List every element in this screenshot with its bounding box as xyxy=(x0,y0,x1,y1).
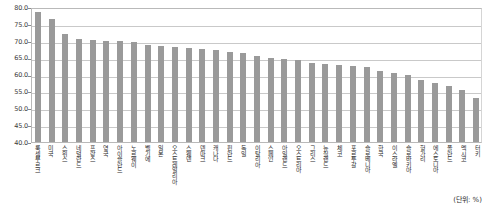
x-axis-tick-label-text: 룩셈부르크 xyxy=(34,145,40,173)
bar xyxy=(281,59,287,142)
bar xyxy=(199,49,205,142)
bar xyxy=(473,98,479,142)
bar xyxy=(117,41,123,142)
x-axis-tick-label: 일본 xyxy=(158,144,164,192)
x-axis-tick-label: 오스트리아 xyxy=(295,144,301,192)
x-axis-labels: 룩셈부르크미국스위스네덜란드프랑스영국아이슬란드노르웨이벨기에일본오스트레일리아… xyxy=(31,144,482,192)
x-axis-tick-label-text: 네덜란드 xyxy=(75,145,81,167)
bar xyxy=(268,58,274,142)
x-axis-tick-label: 에스토니아 xyxy=(433,144,439,192)
y-axis-tick-label: 60.0 xyxy=(14,72,28,79)
bar xyxy=(295,60,301,142)
bar xyxy=(213,50,219,142)
y-axis-tick-label: 80.0 xyxy=(14,5,28,12)
bar xyxy=(254,56,260,142)
x-axis-tick-label: 벨기에 xyxy=(144,144,150,192)
x-axis-tick-label-text: 핀란드 xyxy=(226,145,232,162)
x-axis-tick-label-text: 오스트레일리아 xyxy=(171,145,177,184)
x-axis-tick-label: 독일 xyxy=(240,144,246,192)
x-axis-tick-label: 아일랜드 xyxy=(282,144,288,192)
x-axis-tick-label-text: 슬로바키아 xyxy=(405,145,411,173)
bar xyxy=(459,90,465,142)
x-axis-tick-label: 프랑스 xyxy=(89,144,95,192)
x-axis-tick-label-text: 스페인 xyxy=(268,145,274,162)
x-axis-tick-label: 아이슬란드 xyxy=(117,144,123,192)
x-axis-tick-label: 뉴질랜드 xyxy=(323,144,329,192)
x-axis-tick-label-text: 영국 xyxy=(103,145,109,156)
bar xyxy=(336,65,342,142)
x-axis-tick-label-text: 덴마크 xyxy=(199,145,205,162)
bar xyxy=(322,64,328,142)
x-axis-tick-label: 덴마크 xyxy=(199,144,205,192)
unit-note: (단위: %) xyxy=(453,194,482,204)
x-axis-tick-label: 체코 xyxy=(337,144,343,192)
y-axis-tick-label: 75.0 xyxy=(14,22,28,29)
bar xyxy=(227,52,233,142)
bar xyxy=(186,48,192,143)
x-axis-tick-label-text: 폴란드 xyxy=(446,145,452,162)
x-axis-tick-label-text: 이스라엘 xyxy=(391,145,397,167)
x-axis-tick-label-text: 캐나다 xyxy=(213,145,219,162)
x-axis-tick-label-text: 이탈리아 xyxy=(254,145,260,167)
x-axis-tick-label-text: 노르웨이 xyxy=(130,145,136,167)
x-axis-tick-label-text: 벨기에 xyxy=(144,145,150,162)
bar xyxy=(172,47,178,142)
x-axis-tick-label: 스웨덴 xyxy=(185,144,191,192)
x-axis-tick-label-text: 뉴질랜드 xyxy=(323,145,329,167)
x-axis-tick-label-text: 멕시코 xyxy=(460,145,466,162)
x-axis-tick-label-text: 체코 xyxy=(336,145,342,156)
bar xyxy=(391,73,397,142)
y-axis: 80.075.070.065.060.055.050.045.040.0 xyxy=(0,0,31,151)
bar xyxy=(90,40,96,142)
y-axis-tick-label: 70.0 xyxy=(14,39,28,46)
x-axis-tick-label: 룩셈부르크 xyxy=(34,144,40,192)
x-axis-tick-label: 핀란드 xyxy=(227,144,233,192)
bar xyxy=(364,67,370,142)
x-axis-tick-label: 이탈리아 xyxy=(254,144,260,192)
bar xyxy=(103,41,109,142)
bar xyxy=(131,42,137,142)
y-axis-tick-label: 65.0 xyxy=(14,55,28,62)
x-axis-tick-label: 폴란드 xyxy=(447,144,453,192)
x-axis-tick-label-text: 스위스 xyxy=(61,145,67,162)
x-axis-tick-label: 이스라엘 xyxy=(392,144,398,192)
x-axis-tick-label: 포르투갈 xyxy=(350,144,356,192)
plot-area xyxy=(31,8,482,143)
x-axis-tick-label: 캐나다 xyxy=(213,144,219,192)
bar xyxy=(49,19,55,142)
x-axis-tick-label-text: 헝가리 xyxy=(419,145,425,162)
y-axis-tick-label: 55.0 xyxy=(14,89,28,96)
x-axis-tick-label: 그리스 xyxy=(309,144,315,192)
x-axis-tick-label-text: 슬로베니아 xyxy=(364,145,370,173)
x-axis-tick-label: 오스트레일리아 xyxy=(172,144,178,192)
x-axis-tick-label: 터키 xyxy=(474,144,480,192)
x-axis-tick-label: 슬로바키아 xyxy=(405,144,411,192)
x-axis-tick-label: 네덜란드 xyxy=(75,144,81,192)
x-axis-tick-label-text: 프랑스 xyxy=(89,145,95,162)
x-axis-tick-label-text: 아일랜드 xyxy=(281,145,287,167)
bars-container xyxy=(32,9,481,142)
x-axis-tick-label: 멕시코 xyxy=(460,144,466,192)
bar xyxy=(158,46,164,142)
x-axis-tick-label: 스페인 xyxy=(268,144,274,192)
x-axis-tick-label: 헝가리 xyxy=(419,144,425,192)
y-axis-tick-label: 45.0 xyxy=(14,123,28,130)
x-axis-tick-label: 한국 xyxy=(378,144,384,192)
x-axis-tick-label: 스위스 xyxy=(62,144,68,192)
x-axis-tick-label-text: 포르투갈 xyxy=(350,145,356,167)
bar xyxy=(76,39,82,142)
x-axis-tick-label-text: 스웨덴 xyxy=(185,145,191,162)
bar-chart: 80.075.070.065.060.055.050.045.040.0 룩셈부… xyxy=(0,0,488,207)
x-axis-tick-label-text: 터키 xyxy=(474,145,480,156)
x-axis-tick-label-text: 아이슬란드 xyxy=(116,145,122,173)
x-axis-tick-label-text: 한국 xyxy=(378,145,384,156)
x-axis-tick-label-text: 독일 xyxy=(240,145,246,156)
bar xyxy=(309,63,315,142)
bar xyxy=(145,45,151,142)
x-axis-tick-label: 노르웨이 xyxy=(130,144,136,192)
bar xyxy=(405,75,411,143)
x-axis-tick-label-text: 오스트리아 xyxy=(295,145,301,173)
bar xyxy=(62,34,68,142)
bar xyxy=(240,53,246,142)
y-axis-tick-label: 40.0 xyxy=(14,140,28,147)
